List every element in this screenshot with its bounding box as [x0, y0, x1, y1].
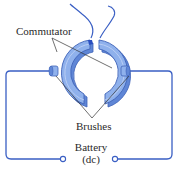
battery-label-line1: Battery	[73, 141, 109, 153]
battery-terminal-right	[112, 156, 117, 161]
battery-terminal-left	[60, 156, 65, 161]
brushes-label: Brushes	[76, 120, 111, 132]
brush-right	[121, 66, 130, 76]
commutator-left-half	[61, 40, 93, 107]
battery-label-line2: (dc)	[73, 153, 109, 165]
battery-label: Battery (dc)	[73, 141, 109, 165]
brush-left	[49, 66, 58, 76]
circuit-wire-left	[6, 71, 60, 159]
coil-wire-right	[100, 6, 115, 38]
coil-wire-left	[70, 4, 93, 38]
commutator-label: Commutator	[16, 25, 72, 37]
